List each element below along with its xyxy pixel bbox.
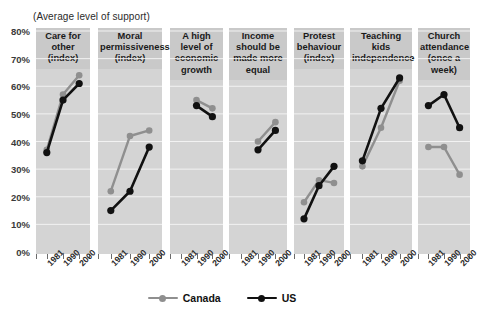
data-point <box>440 91 447 98</box>
data-point <box>425 144 432 151</box>
x-tick-group: 198119902000 <box>294 254 344 288</box>
series-line <box>304 166 334 218</box>
legend-swatch <box>148 293 178 303</box>
data-point <box>456 124 463 131</box>
data-point <box>331 180 338 187</box>
data-point <box>43 149 50 156</box>
data-point <box>193 102 200 109</box>
x-tick-mark <box>170 254 171 259</box>
y-axis-tick: 10% <box>11 219 30 230</box>
y-axis-tick: 70% <box>11 53 30 64</box>
chart-panel: Teachingkidsindependence <box>350 28 412 254</box>
data-point <box>396 74 403 81</box>
x-axis-ticks: 1981199020001981199020001981199020001981… <box>33 254 441 288</box>
data-point <box>377 105 384 112</box>
data-point <box>254 146 261 153</box>
x-tick-mark <box>36 254 37 259</box>
data-point <box>315 182 322 189</box>
data-point <box>441 144 448 151</box>
chart-legend: CanadaUS <box>0 292 444 304</box>
legend-dot <box>159 295 166 302</box>
legend-label: Canada <box>183 292 221 304</box>
x-tick-mark <box>229 254 230 259</box>
x-tick-group: 198119902000 <box>98 254 162 288</box>
data-point <box>330 163 337 170</box>
chart-panel: A highlevel ofeconomicgrowth <box>170 28 223 254</box>
series-line <box>362 81 399 167</box>
y-axis-tick: 50% <box>11 108 30 119</box>
chart-panel: Incomeshould bemade moreequal <box>229 28 287 254</box>
data-point <box>76 80 83 87</box>
x-tick-group: 198119902000 <box>418 254 470 288</box>
chart-subtitle: (Average level of support) <box>33 11 150 22</box>
chart-panel: Moralpermissiveness(index) <box>98 28 162 254</box>
x-tick-mark <box>98 254 99 259</box>
data-point <box>127 133 134 140</box>
panel-plot <box>229 28 287 254</box>
data-point <box>301 199 308 206</box>
data-point <box>108 188 115 195</box>
data-point <box>272 127 279 134</box>
series-line <box>111 147 149 211</box>
panel-plot <box>170 28 223 254</box>
data-point <box>146 143 153 150</box>
panel-plot <box>350 28 412 254</box>
y-axis-tick: 20% <box>11 191 30 202</box>
series-line <box>428 95 459 128</box>
data-point <box>126 188 133 195</box>
data-point <box>255 138 262 145</box>
x-tick-mark <box>350 254 351 259</box>
x-tick-group: 198119902000 <box>350 254 412 288</box>
x-tick-group: 198119902000 <box>36 254 90 288</box>
data-point <box>359 157 366 164</box>
data-point <box>76 72 83 79</box>
data-point <box>59 96 66 103</box>
chart-panel: Churchattendance(once aweek) <box>418 28 470 254</box>
legend-label: US <box>282 292 297 304</box>
data-point <box>425 102 432 109</box>
panel-plot <box>294 28 344 254</box>
panel-plot <box>36 28 90 254</box>
x-tick-group: 198119902000 <box>229 254 287 288</box>
data-point <box>107 207 114 214</box>
series-line <box>428 147 459 175</box>
chart-panel: Care forother(index) <box>36 28 90 254</box>
x-tick-mark <box>418 254 419 259</box>
panel-grid: Care forother(index)Moralpermissiveness(… <box>33 28 441 254</box>
series-line <box>362 78 399 161</box>
y-axis-tick: 60% <box>11 81 30 92</box>
y-axis-tick: 80% <box>11 26 30 37</box>
data-point <box>378 124 385 131</box>
data-point <box>456 171 463 178</box>
legend-item[interactable]: Canada <box>148 292 221 304</box>
y-axis-labels: 80%70%60%50%40%30%20%10%0% <box>0 0 32 319</box>
legend-dot <box>258 295 265 302</box>
data-point <box>209 113 216 120</box>
x-tick-mark <box>294 254 295 259</box>
y-axis-tick: 0% <box>16 247 30 258</box>
x-tick-group: 198119902000 <box>170 254 223 288</box>
panel-plot <box>418 28 470 254</box>
data-point <box>300 215 307 222</box>
data-point <box>209 105 216 112</box>
data-point <box>272 119 279 126</box>
data-point <box>146 127 153 134</box>
y-axis-tick: 30% <box>11 164 30 175</box>
y-axis-tick: 40% <box>11 136 30 147</box>
chart-panel: Protestbehaviour(index) <box>294 28 344 254</box>
panel-plot <box>98 28 162 254</box>
legend-item[interactable]: US <box>247 292 297 304</box>
legend-swatch <box>247 293 277 303</box>
